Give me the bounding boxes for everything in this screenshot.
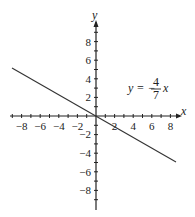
svg-text:−2: −2 [79, 128, 91, 140]
chart-canvas: −8 −6 −4 −2 2 4 6 8 8 6 4 2 −2 −4 −6 −8 … [0, 0, 195, 217]
svg-text:6: 6 [149, 120, 155, 132]
svg-text:−6: −6 [34, 120, 46, 132]
svg-text:8: 8 [168, 120, 174, 132]
svg-text:x: x [162, 81, 169, 95]
svg-text:−6: −6 [79, 166, 91, 178]
svg-text:y = −: y = − [127, 81, 156, 95]
svg-text:2: 2 [86, 91, 92, 103]
x-axis-label: x [180, 104, 187, 118]
equation-annotation: y = − 4 7 x [127, 75, 169, 102]
svg-text:6: 6 [86, 54, 92, 66]
svg-text:4: 4 [86, 73, 92, 85]
svg-text:−4: −4 [79, 147, 91, 159]
x-tick-labels: −8 −6 −4 −2 2 4 6 8 [16, 120, 174, 132]
svg-text:8: 8 [86, 36, 92, 48]
svg-text:−8: −8 [16, 120, 28, 132]
y-axis-label: y [91, 8, 98, 22]
svg-text:7: 7 [153, 88, 159, 102]
svg-text:−8: −8 [79, 184, 91, 196]
svg-text:2: 2 [112, 120, 118, 132]
svg-text:−4: −4 [53, 120, 65, 132]
svg-text:4: 4 [153, 75, 159, 89]
svg-text:4: 4 [130, 120, 136, 132]
